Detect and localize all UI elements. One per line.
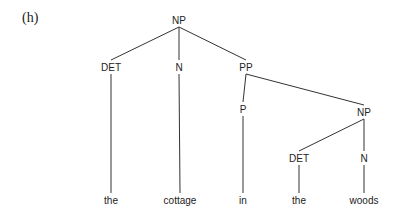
tree-node: NP: [172, 15, 186, 26]
leaf-word: woods: [350, 195, 379, 206]
tree-edge: [179, 74, 180, 193]
tree-edge: [246, 74, 364, 105]
tree-edge: [111, 27, 179, 60]
leaf-word: the: [292, 195, 306, 206]
tree-edges: [0, 0, 396, 213]
tree-edge: [179, 27, 246, 60]
tree-node: NP: [357, 107, 371, 118]
tree-node: N: [175, 62, 182, 73]
leaf-word: in: [239, 195, 247, 206]
tree-node: DET: [101, 62, 121, 73]
tree-edge: [299, 119, 364, 151]
tree-node: DET: [289, 153, 309, 164]
leaf-word: cottage: [164, 195, 197, 206]
tree-edge: [243, 74, 246, 102]
tree-node: N: [360, 153, 367, 164]
leaf-word: the: [104, 195, 118, 206]
tree-node: PP: [239, 62, 252, 73]
tree-node: P: [240, 104, 247, 115]
